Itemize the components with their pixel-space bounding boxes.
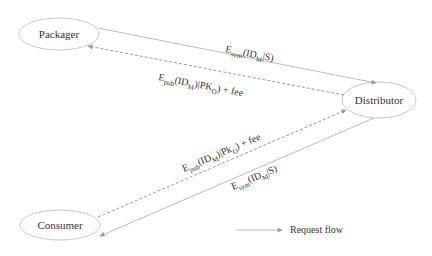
node-packager: Packager (19, 18, 99, 50)
edge-label-pub-top: Epub(IDM)|PKO) + fee (157, 71, 245, 101)
node-label-consumer: Consumer (37, 219, 83, 231)
node-label-distributor: Distributor (355, 94, 404, 106)
edge-label-sym-bottom: Esym(IDM|S) (229, 163, 279, 195)
legend: Request flow (236, 224, 344, 235)
flow-diagram: Packager Distributor Consumer Esym(IDM|S… (0, 0, 432, 256)
edge-consumer-to-distributor (98, 110, 346, 217)
edge-distributor-to-consumer (100, 118, 374, 236)
svg-text:Epub(IDM)|PkO) + fee: Epub(IDM)|PkO) + fee (180, 131, 263, 177)
node-consumer: Consumer (20, 210, 100, 240)
edge-label-sym-top: Esym(IDM|S) (224, 43, 275, 66)
legend-label: Request flow (290, 224, 344, 235)
node-label-packager: Packager (39, 28, 80, 40)
node-distributor: Distributor (342, 82, 416, 118)
svg-text:Esym(IDM|S): Esym(IDM|S) (224, 43, 275, 66)
svg-text:Esym(IDM|S): Esym(IDM|S) (229, 163, 279, 195)
edge-label-pub-bottom: Epub(IDM)|PkO) + fee (180, 131, 263, 177)
svg-text:Epub(IDM)|PKO) + fee: Epub(IDM)|PKO) + fee (157, 71, 245, 101)
